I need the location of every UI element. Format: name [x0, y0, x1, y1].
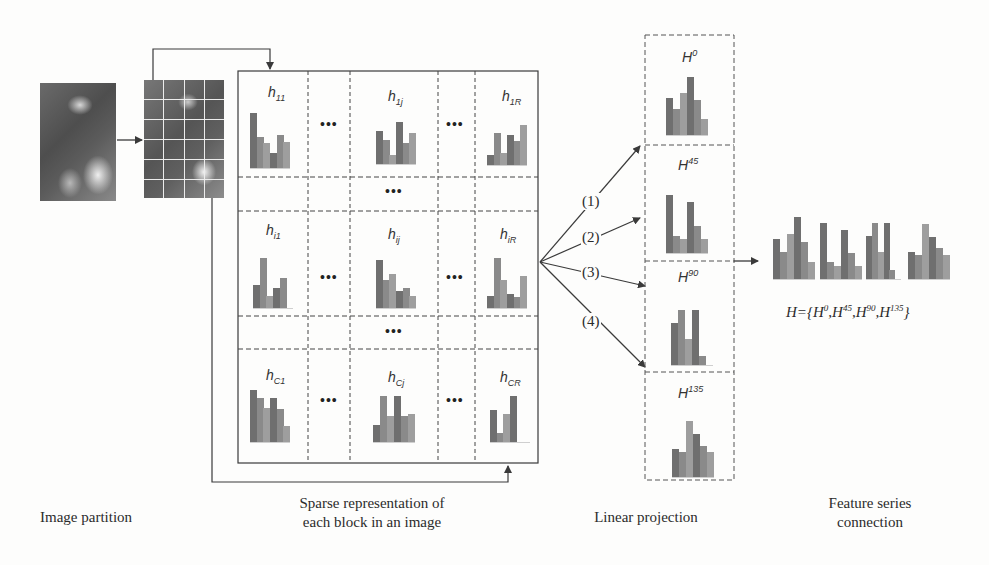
histogram-bar — [409, 133, 416, 164]
histogram-H45 — [666, 195, 708, 254]
histogram-bar — [678, 310, 685, 365]
histogram-bar — [394, 396, 401, 442]
histogram-bar — [794, 217, 801, 279]
histogram-bar — [680, 93, 687, 135]
concat-histogram-H45 — [820, 223, 862, 280]
histogram-bar — [827, 262, 834, 279]
histogram-bar — [510, 396, 517, 442]
histogram-bar — [889, 270, 895, 279]
ellipsis-row2-b: ••• — [446, 270, 464, 286]
histogram-bar — [841, 230, 848, 279]
histogram-bar — [801, 242, 808, 279]
histogram-bar — [693, 434, 700, 477]
histogram-bar — [671, 323, 678, 365]
histogram-bar — [700, 446, 707, 477]
label-h11: h11 — [268, 84, 285, 103]
histogram-bar — [687, 77, 694, 135]
histogram-bar — [686, 421, 693, 477]
ellipsis-row1-b: ••• — [446, 117, 464, 133]
label-hij: hij — [388, 226, 400, 245]
histogram-bar — [908, 252, 915, 280]
histogram-bar — [520, 276, 527, 308]
histogram-H90 — [671, 310, 713, 366]
histogram-bar — [687, 202, 694, 253]
ellipsis-vertical-2: ••• — [385, 324, 403, 340]
projection-label-3: (3) — [581, 264, 601, 281]
histogram-bar — [679, 452, 686, 477]
ellipsis-row3-b: ••• — [446, 393, 464, 409]
caption-image-partition: Image partition — [40, 508, 180, 527]
histogram-h1j — [376, 118, 416, 165]
histogram-hCR — [490, 396, 530, 443]
label-H0: H0 — [682, 48, 697, 65]
partitioned-image — [144, 80, 224, 198]
histogram-bar — [280, 278, 287, 308]
histogram-bar — [673, 236, 680, 253]
histogram-bar — [855, 266, 862, 279]
histogram-h11 — [250, 113, 290, 169]
label-h1R: h1R — [502, 88, 521, 107]
feature-formula: H={H0,H45,H90,H135} — [786, 303, 910, 321]
histogram-bar — [773, 239, 780, 279]
histogram-bar — [387, 416, 394, 442]
histogram-bar — [707, 452, 714, 477]
histogram-bar — [787, 234, 794, 279]
concat-histogram-H90 — [866, 223, 901, 280]
projection-label-4: (4) — [581, 313, 601, 330]
histogram-bar — [666, 98, 673, 135]
ellipsis-row2-a: ••• — [320, 270, 338, 286]
histogram-bar — [672, 449, 679, 477]
ellipsis-row1-a: ••• — [320, 117, 338, 133]
histogram-bar — [929, 237, 936, 279]
label-hCj: hCj — [388, 369, 404, 388]
projection-label-2: (2) — [581, 229, 601, 246]
histogram-bar — [694, 100, 701, 135]
histogram-bar — [409, 296, 416, 308]
histogram-bar — [408, 414, 415, 442]
label-H45: H45 — [678, 156, 698, 173]
ellipsis-vertical-1: ••• — [385, 184, 403, 200]
label-hi1: hi1 — [266, 222, 281, 241]
histogram-H0 — [666, 77, 708, 136]
histogram-bar — [699, 356, 706, 365]
histogram-bar — [701, 119, 708, 135]
histogram-bar — [820, 223, 827, 279]
histogram-hij — [376, 260, 416, 309]
histogram-bar — [808, 262, 815, 279]
histogram-bar — [936, 248, 943, 279]
histogram-bar — [922, 224, 929, 279]
histogram-bar — [283, 142, 290, 168]
histogram-bar — [666, 195, 673, 253]
label-hCR: hCR — [500, 369, 521, 388]
histogram-h1R — [487, 120, 527, 166]
histogram-hiR — [487, 258, 527, 309]
histogram-bar — [694, 226, 701, 253]
label-H135: H135 — [678, 384, 703, 401]
label-hC1: hC1 — [266, 367, 285, 386]
label-H90: H90 — [678, 268, 698, 285]
caption-feature-series-connection: Feature series connection — [800, 494, 940, 532]
histogram-hC1 — [250, 390, 290, 443]
histogram-bar — [401, 416, 408, 442]
histogram-H135 — [672, 421, 714, 478]
histogram-bar — [520, 125, 527, 165]
histogram-bar — [380, 396, 387, 442]
ellipsis-row3-a: ••• — [320, 393, 338, 409]
histogram-bar — [701, 239, 708, 253]
histogram-bar — [373, 425, 380, 442]
histogram-bar — [780, 252, 787, 279]
projection-label-1: (1) — [581, 193, 601, 210]
histogram-hCj — [373, 396, 415, 443]
concat-histogram-H135 — [908, 224, 950, 280]
histogram-bar — [685, 339, 692, 365]
label-hiR: hiR — [500, 226, 516, 245]
caption-linear-projection: Linear projection — [566, 508, 726, 527]
histogram-bar — [834, 266, 841, 279]
caption-sparse-representation: Sparse representation of each block in a… — [272, 494, 472, 532]
histogram-bar — [283, 426, 290, 442]
label-h1j: h1j — [388, 88, 403, 107]
histogram-bar — [692, 310, 699, 365]
histogram-bar — [673, 109, 680, 135]
histogram-bar — [680, 239, 687, 253]
histogram-bar — [848, 253, 855, 279]
